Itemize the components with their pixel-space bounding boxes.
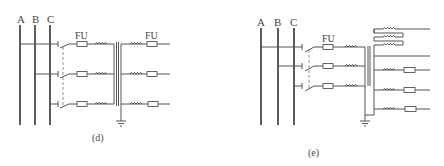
ground-icon <box>360 121 370 126</box>
ground-icon <box>116 121 126 126</box>
isolating-switch-d <box>58 41 69 108</box>
fuse-icon <box>323 84 333 89</box>
fuse-icon <box>404 88 415 93</box>
phase-label-b: B <box>274 16 281 28</box>
fuse-icon <box>148 102 158 107</box>
fuse-icon <box>77 102 87 107</box>
panel-e: A B C FU <box>257 16 430 159</box>
phase-label-c: C <box>290 16 297 28</box>
fuse-icon <box>323 64 333 69</box>
caption-e: (e) <box>308 147 319 159</box>
panel-d: A B C FU <box>17 13 170 144</box>
fuse-icon <box>323 45 333 50</box>
fuse-icon <box>405 107 416 112</box>
fuse-icon <box>77 42 87 47</box>
fuse-label-primary-d: FU <box>75 30 89 41</box>
fuse-label-primary-e: FU <box>322 33 336 44</box>
isolating-switch-e <box>302 44 314 91</box>
secondary-winding-d <box>130 43 142 105</box>
fuse-icon <box>147 42 157 47</box>
fuse-label-secondary-d: FU <box>145 30 159 41</box>
phase-label-a: A <box>17 13 25 25</box>
fuse-icon <box>404 68 415 73</box>
circuit-diagrams: A B C FU <box>0 0 444 166</box>
open-delta-windings-e <box>374 28 430 46</box>
caption-d: (d) <box>92 132 104 144</box>
phase-label-a: A <box>257 16 265 28</box>
primary-winding-d <box>95 43 107 105</box>
secondary-winding-e <box>383 69 395 110</box>
phase-label-c: C <box>47 13 54 25</box>
fuse-icon <box>77 72 87 77</box>
phase-label-b: B <box>32 13 39 25</box>
fuse-icon <box>147 72 157 77</box>
